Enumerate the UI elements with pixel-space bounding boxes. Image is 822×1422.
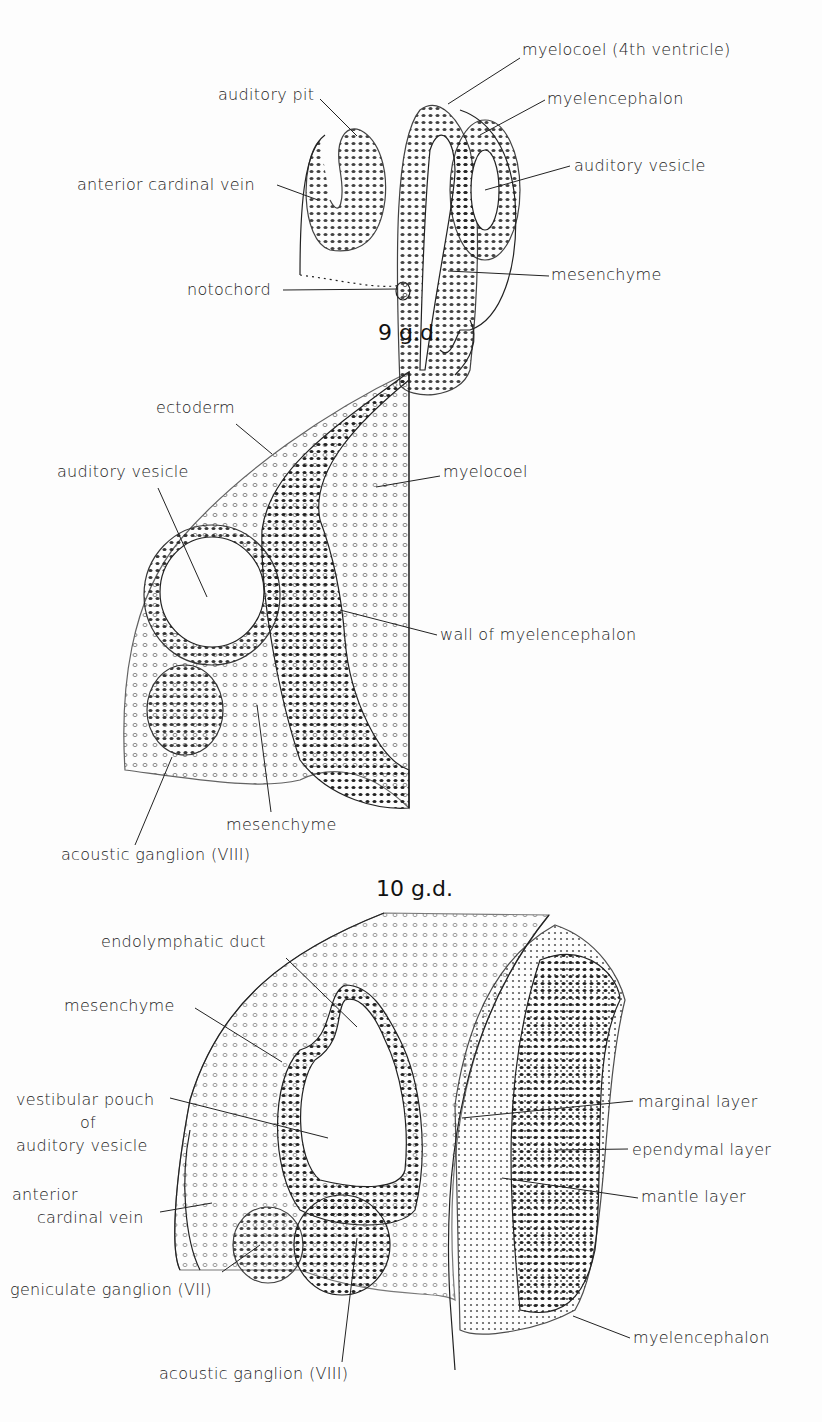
label-mesenchyme: mesenchyme: [551, 265, 662, 284]
section-3: [175, 913, 625, 1370]
label-endolymphatic-duct: endolymphatic duct: [101, 932, 266, 951]
label-vestibular-pouch: vestibular pouch: [16, 1090, 154, 1109]
label-myelocoel: myelocoel (4th ventricle): [522, 40, 731, 59]
label-mantle-layer: mantle layer: [641, 1187, 746, 1206]
label-notochord: notochord: [187, 280, 271, 299]
label-myelencephalon: myelencephalon: [633, 1328, 770, 1347]
label-mesenchyme: mesenchyme: [64, 996, 175, 1015]
label-auditory-vesicle: auditory vesicle: [57, 462, 189, 481]
section-10gd: [124, 372, 409, 808]
label-vestibular-pouch-auditory-vesicle: auditory vesicle: [16, 1136, 148, 1155]
label-geniculate-ganglion: geniculate ganglion (VII): [10, 1280, 212, 1299]
label-ectoderm: ectoderm: [156, 398, 235, 417]
caption-10gd: 10 g.d.: [376, 876, 453, 901]
label-myelencephalon: myelencephalon: [547, 89, 684, 108]
label-vestibular-pouch-of: of: [80, 1113, 96, 1132]
label-auditory-vesicle: auditory vesicle: [574, 156, 706, 175]
label-myelocoel: myelocoel: [443, 462, 528, 481]
label-acoustic-ganglion: acoustic ganglion (VIII): [159, 1364, 348, 1383]
label-acoustic-ganglion: acoustic ganglion (VIII): [61, 845, 250, 864]
label-ependymal-layer: ependymal layer: [632, 1140, 771, 1159]
label-anterior-cardinal-vein: anterior cardinal vein: [77, 175, 255, 194]
label-wall-of-myelencephalon: wall of myelencephalon: [440, 625, 636, 644]
label-mesenchyme: mesenchyme: [226, 815, 337, 834]
label-cardinal-vein: cardinal vein: [37, 1208, 144, 1227]
label-marginal-layer: marginal layer: [638, 1092, 758, 1111]
section-9gd: [300, 106, 520, 395]
caption-9gd: 9 g.d.: [378, 320, 441, 345]
label-anterior: anterior: [12, 1185, 78, 1204]
label-auditory-pit: auditory pit: [218, 85, 314, 104]
